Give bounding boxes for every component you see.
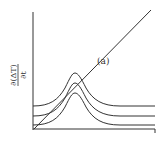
panel-label: (a) (97, 56, 109, 66)
y-axis-label: ∂(ΔT) ∂t (9, 64, 28, 86)
y-label-denominator: ∂t (19, 71, 28, 79)
series-straight-line (34, 10, 151, 129)
y-label-numerator: ∂(ΔT) (9, 64, 18, 86)
chart: (a) ∂(ΔT) ∂t (0, 0, 161, 146)
series-upper-curve (33, 73, 155, 106)
